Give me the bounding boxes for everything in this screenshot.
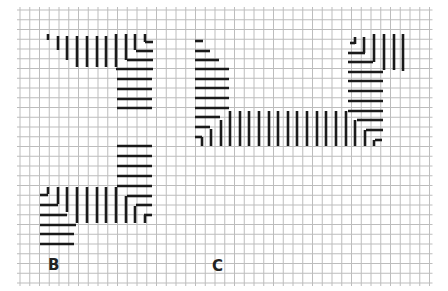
stitch-motif-b [40, 34, 153, 244]
stitch-motif-c [195, 34, 403, 146]
grid-lines [17, 7, 433, 286]
figure-label-c: C [212, 257, 223, 275]
graph-paper-diagram [0, 0, 448, 291]
figure-label-b: B [48, 256, 59, 274]
